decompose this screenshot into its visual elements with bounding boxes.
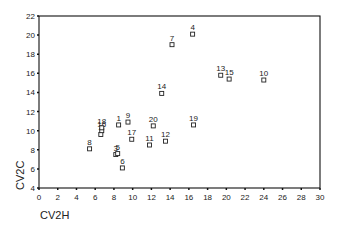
data-point: 7 [170,34,175,47]
point-label: 7 [170,34,175,43]
plot-border [39,16,320,188]
square-marker-icon [126,120,130,124]
point-label: 18 [97,117,106,126]
point-label: 12 [161,130,170,139]
data-point: 20 [149,115,158,128]
point-label: 11 [145,134,154,143]
x-tick-label: 26 [278,193,287,202]
square-marker-icon [88,147,92,151]
y-tick-label: 18 [26,50,35,59]
y-tick-label: 4 [31,184,36,193]
y-tick-label: 22 [26,12,35,21]
square-marker-icon [262,78,266,82]
data-point: 14 [157,82,166,95]
x-tick-label: 0 [37,193,42,202]
point-label: 10 [259,69,268,78]
square-marker-icon [191,32,195,36]
data-point: 19 [189,114,198,127]
data-point: 4 [190,23,195,36]
x-tick-label: 22 [241,193,250,202]
square-marker-icon [163,139,167,143]
data-point: 5 [115,143,120,156]
square-marker-icon [151,124,155,128]
y-tick-label: 20 [26,31,35,40]
data-point: 8 [87,138,92,151]
square-marker-icon [100,126,104,130]
x-tick-label: 8 [112,193,117,202]
x-tick-label: 18 [203,193,212,202]
square-marker-icon [160,91,164,95]
x-tick-label: 10 [128,193,137,202]
y-tick-label: 8 [31,146,36,155]
y-tick-label: 16 [26,69,35,78]
square-marker-icon [116,152,120,156]
x-tick-label: 2 [56,193,61,202]
square-marker-icon [130,137,134,141]
point-label: 19 [189,114,198,123]
x-tick-label: 14 [166,193,175,202]
plot-frame [39,16,320,188]
data-point: 12 [161,130,170,143]
x-tick-label: 20 [222,193,231,202]
square-marker-icon [148,143,152,147]
x-tick-label: 4 [74,193,79,202]
data-point: 6 [120,157,125,170]
square-marker-icon [192,123,196,127]
square-marker-icon [227,77,231,81]
data-point: 15 [225,68,234,81]
y-tick-label: 14 [26,88,35,97]
data-point: 11 [145,134,154,147]
point-label: 17 [127,128,136,137]
square-marker-icon [170,43,174,47]
x-tick-label: 24 [259,193,268,202]
point-label: 8 [87,138,92,147]
point-label: 5 [115,143,120,152]
point-label: 14 [157,82,166,91]
point-label: 4 [190,23,195,32]
point-label: 20 [149,115,158,124]
data-point: 9 [126,111,131,124]
y-tick-label: 12 [26,108,35,117]
y-tick-label: 6 [31,165,36,174]
point-label: 9 [126,111,131,120]
y-tick-label: 10 [26,127,35,136]
x-tick-label: 16 [184,193,193,202]
point-label: 15 [225,68,234,77]
data-point: 10 [259,69,268,82]
x-axis-ticks: 024681012141618202224262830 [37,188,325,202]
square-marker-icon [219,73,223,77]
x-axis-title: CV2H [40,209,69,221]
square-marker-icon [120,166,124,170]
x-tick-label: 28 [297,193,306,202]
scatter-chart: 024681012141618202224262830 468101214161… [0,0,339,228]
square-marker-icon [117,123,121,127]
x-tick-label: 30 [316,193,325,202]
y-axis-title: CV2C [14,161,26,190]
data-point: 1 [116,114,121,127]
x-tick-label: 6 [93,193,98,202]
data-point: 17 [127,128,136,141]
data-points: 1234567891011121314151617181920 [87,23,268,170]
x-tick-label: 12 [147,193,156,202]
point-label: 1 [116,114,121,123]
y-axis-ticks: 46810121416182022 [26,12,39,193]
point-label: 6 [120,157,125,166]
